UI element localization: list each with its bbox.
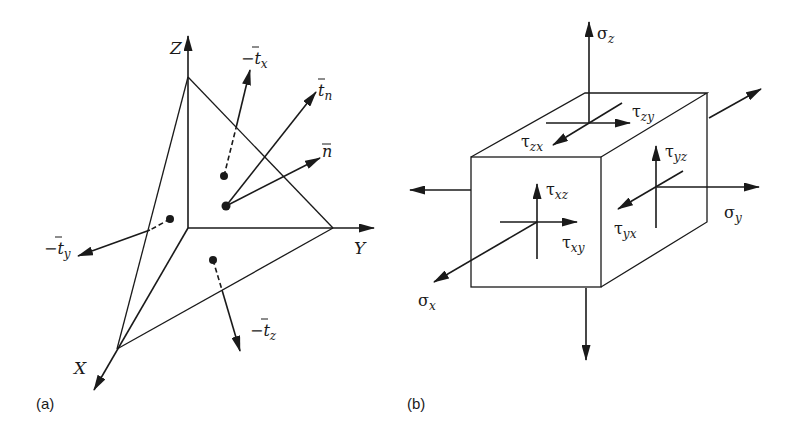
cube-side-face xyxy=(601,93,707,287)
n-label: n xyxy=(322,142,332,161)
panel-a-caption: (a) xyxy=(36,395,54,412)
neg-ty-vector xyxy=(78,230,150,256)
point-face-n xyxy=(222,202,231,211)
tau-xz-label: τxz xyxy=(546,180,569,202)
tau-yz-label: τyz xyxy=(665,142,688,164)
svg-text:−tz: −tz xyxy=(250,321,277,343)
sigma-x-label: σx xyxy=(418,291,436,313)
svg-text:tn: tn xyxy=(318,81,332,103)
svg-text:n: n xyxy=(322,142,332,161)
panel-a-tetrahedron: Z Y X −tx tn n −ty −tz (a) xyxy=(36,36,374,412)
neg-tz-hidden-part xyxy=(213,260,222,290)
x-axis xyxy=(94,228,188,390)
sigma-z-label: σz xyxy=(597,24,615,46)
point-face-y xyxy=(166,215,174,223)
tn-label: tn xyxy=(318,79,332,103)
neg-ty-label: −ty xyxy=(44,237,71,261)
sigma-y-label: σy xyxy=(724,203,742,225)
neg-tx-hidden-part xyxy=(224,128,236,176)
panel-b-stress-cube: σz τzy τzx τyz τxz σy τyx τxy σx (b) xyxy=(407,22,761,412)
svg-text:−tx: −tx xyxy=(241,49,268,71)
tn-vector xyxy=(226,92,316,206)
svg-text:−ty: −ty xyxy=(44,239,71,261)
point-face-x xyxy=(220,172,228,180)
neg-tz-label: −tz xyxy=(250,319,277,343)
z-axis-label: Z xyxy=(169,38,183,58)
tau-yx-arrow xyxy=(618,171,683,209)
point-face-z xyxy=(209,256,217,264)
tau-zx-arrow xyxy=(553,103,622,145)
tau-xy-label: τxy xyxy=(562,233,585,255)
x-axis-label: X xyxy=(72,358,87,378)
y-axis-label: Y xyxy=(354,238,367,258)
edge-zx xyxy=(117,77,188,349)
neg-tz-vector xyxy=(222,290,240,351)
tau-zx-label: τzx xyxy=(521,132,543,154)
sigma-x-arrow xyxy=(434,222,537,282)
tau-zy-label: τzy xyxy=(632,102,654,124)
figure-canvas: Z Y X −tx tn n −ty −tz (a) xyxy=(0,0,797,444)
tau-yx-label: τyx xyxy=(614,219,637,241)
neg-tx-vector xyxy=(236,70,250,128)
panel-b-caption: (b) xyxy=(407,395,425,412)
edge-zy xyxy=(188,77,333,228)
edge-xy xyxy=(117,228,333,349)
sigma-x-back-arrow xyxy=(709,89,761,118)
neg-tx-label: −tx xyxy=(241,47,268,71)
